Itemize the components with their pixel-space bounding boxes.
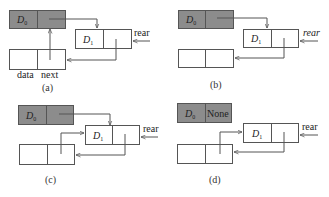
rear-label: rear — [302, 121, 318, 132]
node-d1: D1 — [86, 126, 140, 145]
data-field-label: data — [17, 69, 34, 80]
head-node: D0 — [19, 106, 74, 125]
caption-c: (c) — [45, 174, 56, 186]
rear-label: rear — [134, 27, 150, 38]
panel-c: D0 D1 rear (c) — [19, 106, 160, 187]
new-node — [179, 50, 234, 68]
head-node: D0 — [179, 11, 234, 29]
panel-a: D0 D1 rear data next (a) — [10, 11, 151, 95]
caption-d: (d) — [209, 174, 221, 186]
next-field-label: next — [41, 69, 58, 80]
caption-a: (a) — [42, 82, 53, 94]
rear-label: rear — [303, 27, 320, 38]
new-node — [20, 145, 75, 165]
rear-label: rear — [143, 123, 159, 134]
node-d1: D1 — [76, 30, 132, 49]
head-node: D0 None — [178, 104, 232, 123]
panel-d: D0 None D1 rear (d) — [178, 104, 319, 187]
node-d1: D1 — [244, 124, 299, 143]
caption-b: (b) — [210, 79, 222, 91]
new-node — [10, 50, 66, 70]
linked-list-diagram: D0 D1 rear data next (a) D0 — [0, 0, 329, 197]
head-node-next-none: None — [207, 108, 229, 119]
node-d1: D1 — [244, 30, 299, 48]
new-node — [178, 145, 233, 164]
panel-b: D0 D1 rear (b) — [179, 11, 320, 92]
